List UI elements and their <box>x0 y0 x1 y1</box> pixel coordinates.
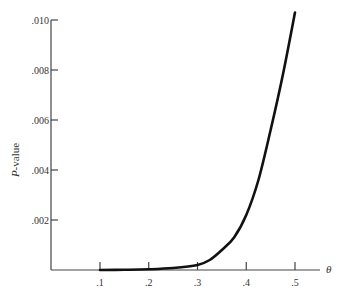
y-tick-label: .006 <box>32 115 50 126</box>
y-tick-label: .002 <box>32 215 50 226</box>
y-tick-label: .008 <box>32 65 50 76</box>
p-value-chart: .002.004.006.008.010 .1.2.3.4.5 P-value … <box>0 0 343 293</box>
x-tick-label: .5 <box>291 277 299 288</box>
x-tick-label: .1 <box>96 277 104 288</box>
y-axis: .002.004.006.008.010 <box>32 15 59 271</box>
y-tick-label: .004 <box>32 165 50 176</box>
p-value-curve <box>100 13 295 271</box>
y-tick-label: .010 <box>32 15 50 26</box>
x-tick-label: .3 <box>194 277 202 288</box>
x-tick-label: .4 <box>243 277 251 288</box>
y-axis-label: P-value <box>9 143 21 178</box>
x-tick-label: .2 <box>145 277 153 288</box>
x-axis-label: θ <box>326 263 332 275</box>
